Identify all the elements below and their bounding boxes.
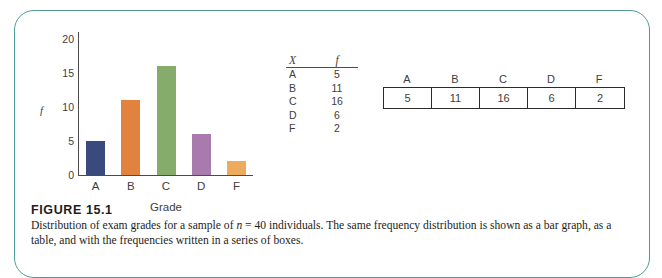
x-axis-line xyxy=(78,175,253,176)
box-cell-a: 5 xyxy=(384,88,432,108)
frequency-table: X f A5B11C16D6F2 xyxy=(286,54,358,136)
table-row: F2 xyxy=(286,122,358,136)
figure-number-label: FIGURE 15.1 xyxy=(31,203,631,217)
bar-c xyxy=(157,66,176,175)
y-tick-label: 20 xyxy=(30,34,74,45)
table-cell-x: D xyxy=(286,109,317,123)
table-cell-f: 5 xyxy=(317,68,357,82)
table-cell-x: F xyxy=(286,122,317,136)
table-cell-x: A xyxy=(286,68,317,82)
y-tick-label: 5 xyxy=(30,136,74,147)
box-cell-c: 16 xyxy=(480,88,528,108)
table-row: D6 xyxy=(286,109,358,123)
table-cell-f: 11 xyxy=(317,82,357,96)
x-tick-label: D xyxy=(186,180,216,192)
table-header-f: f xyxy=(317,54,357,66)
frequency-table-body: A5B11C16D6F2 xyxy=(286,68,358,136)
box-label-a: A xyxy=(383,72,431,87)
table-cell-f: 2 xyxy=(317,122,357,136)
table-row: A5 xyxy=(286,68,358,82)
bar-chart: f 20 15 10 5 0 ABCDF Grade xyxy=(28,26,263,186)
figure-caption-text: Distribution of exam grades for a sample… xyxy=(31,219,627,248)
x-tick-label: B xyxy=(116,180,146,192)
figure-caption-block: FIGURE 15.1 Distribution of exam grades … xyxy=(31,203,631,248)
y-tick-label: 0 xyxy=(30,170,74,181)
bar-f xyxy=(227,161,246,175)
x-tick-label: A xyxy=(81,180,111,192)
box-label-d: D xyxy=(527,72,575,87)
frequency-box-row: ABCDF 5111662 xyxy=(383,72,625,109)
y-tick-label: 10 xyxy=(30,102,74,113)
table-row: B11 xyxy=(286,82,358,96)
box-cell-d: 6 xyxy=(528,88,576,108)
box-label-b: B xyxy=(431,72,479,87)
caption-line-1: Distribution of exam grades for a sample… xyxy=(31,219,591,232)
bar-d xyxy=(192,134,211,175)
x-tick-label: F xyxy=(221,180,251,192)
box-row-labels: ABCDF xyxy=(383,72,625,87)
box-cell-b: 11 xyxy=(432,88,480,108)
table-header-x: X xyxy=(286,54,317,66)
table-row: C16 xyxy=(286,95,358,109)
table-cell-x: C xyxy=(286,95,317,109)
box-cell-f: 2 xyxy=(576,88,624,108)
bars-layer xyxy=(78,32,254,175)
box-label-c: C xyxy=(479,72,527,87)
box-label-f: F xyxy=(575,72,623,87)
y-tick-label: 15 xyxy=(30,68,74,79)
box-row-cells: 5111662 xyxy=(383,87,625,109)
table-cell-x: B xyxy=(286,82,317,96)
frequency-table-header: X f xyxy=(286,54,358,68)
bar-b xyxy=(121,100,140,175)
x-tick-label: C xyxy=(151,180,181,192)
table-cell-f: 16 xyxy=(317,95,357,109)
bar-a xyxy=(86,141,105,175)
table-cell-f: 6 xyxy=(317,109,357,123)
